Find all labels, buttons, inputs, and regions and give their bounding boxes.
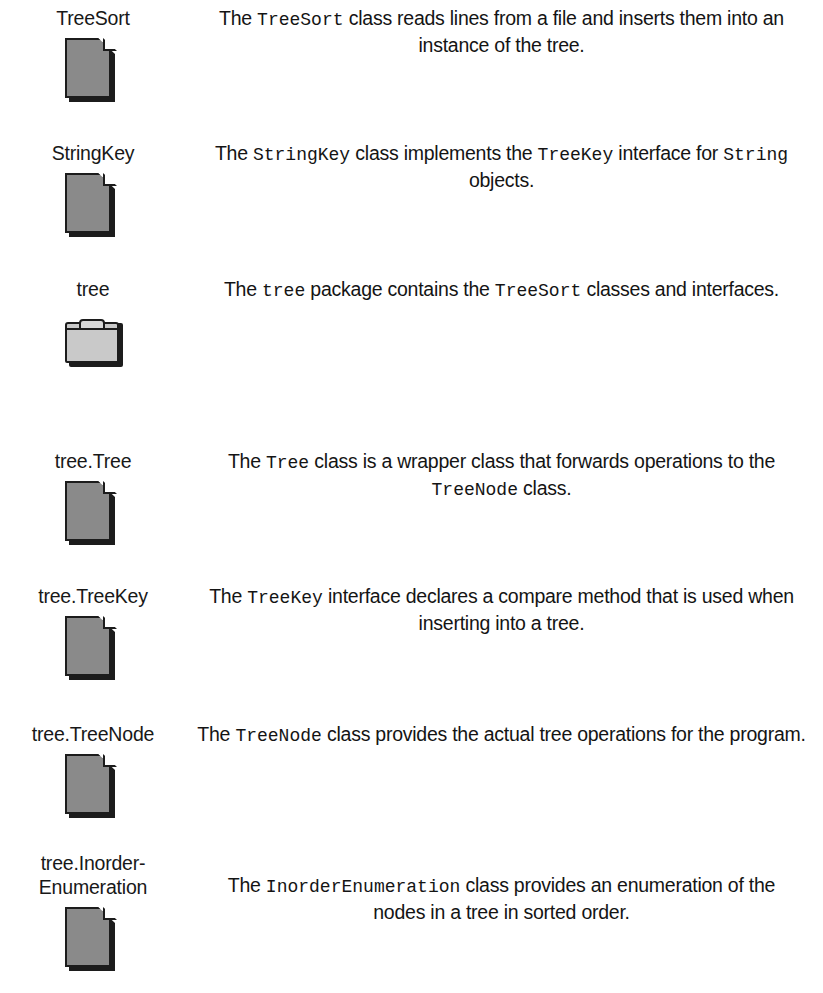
- prose-token: package contains the: [305, 278, 495, 300]
- description-text: The TreeNode class provides the actual t…: [197, 722, 807, 749]
- file-icon: [65, 173, 121, 241]
- prose-token: interface declares a compare method that…: [323, 585, 794, 634]
- table-row: TreeSortThe TreeSort class reads lines f…: [0, 6, 823, 106]
- code-token: StringKey: [253, 145, 350, 165]
- prose-token: class provides the actual tree operation…: [322, 723, 806, 745]
- file-icon: [65, 38, 121, 106]
- file-icon: [65, 907, 121, 975]
- description-cell: The TreeNode class provides the actual t…: [186, 722, 823, 749]
- table-row: tree.Inorder- EnumerationThe InorderEnum…: [0, 851, 823, 975]
- description-text: The TreeSort class reads lines from a fi…: [192, 6, 812, 58]
- item-label: tree: [77, 277, 110, 301]
- description-text: The tree package contains the TreeSort c…: [219, 277, 784, 304]
- prose-token: The: [228, 450, 266, 472]
- item-label: TreeSort: [56, 6, 130, 30]
- table-row: treeThe tree package contains the TreeSo…: [0, 277, 823, 377]
- file-icon: [65, 481, 121, 549]
- item-cell: tree: [0, 277, 186, 377]
- item-label: tree.Inorder- Enumeration: [39, 851, 147, 899]
- description-cell: The StringKey class implements the TreeK…: [186, 141, 823, 193]
- prose-token: class is a wrapper class that forwards o…: [309, 450, 775, 472]
- item-label: tree.Tree: [55, 449, 132, 473]
- prose-token: objects.: [469, 169, 534, 191]
- item-cell: tree.Tree: [0, 449, 186, 549]
- prose-token: class implements the: [350, 142, 537, 164]
- folder-icon: [65, 309, 121, 377]
- description-cell: The InorderEnumeration class provides an…: [186, 851, 823, 925]
- description-text: The Tree class is a wrapper class that f…: [192, 449, 812, 503]
- item-label: StringKey: [52, 141, 135, 165]
- prose-token: The: [197, 723, 235, 745]
- item-cell: StringKey: [0, 141, 186, 241]
- table-row: StringKeyThe StringKey class implements …: [0, 141, 823, 241]
- table-row: tree.TreeKeyThe TreeKey interface declar…: [0, 584, 823, 684]
- item-cell: TreeSort: [0, 6, 186, 106]
- item-cell: tree.TreeKey: [0, 584, 186, 684]
- description-cell: The Tree class is a wrapper class that f…: [186, 449, 823, 503]
- code-token: TreeNode: [235, 726, 321, 746]
- prose-token: class.: [518, 477, 572, 499]
- description-text: The StringKey class implements the TreeK…: [197, 141, 807, 193]
- file-icon: [65, 754, 121, 822]
- code-token: String: [723, 145, 788, 165]
- item-label: tree.TreeKey: [38, 584, 148, 608]
- description-cell: The tree package contains the TreeSort c…: [186, 277, 823, 304]
- prose-token: The: [219, 7, 257, 29]
- code-token: TreeKey: [538, 145, 614, 165]
- prose-token: class reads lines from a file and insert…: [344, 7, 784, 56]
- code-token: tree: [262, 281, 305, 301]
- prose-token: The: [215, 142, 253, 164]
- prose-token: The: [209, 585, 247, 607]
- description-cell: The TreeSort class reads lines from a fi…: [186, 6, 823, 58]
- prose-token: The: [224, 278, 262, 300]
- file-icon: [65, 616, 121, 684]
- prose-token: The: [228, 874, 266, 896]
- table-row: tree.TreeThe Tree class is a wrapper cla…: [0, 449, 823, 549]
- description-text: The TreeKey interface declares a compare…: [202, 584, 802, 636]
- prose-token: classes and interfaces.: [581, 278, 779, 300]
- code-token: TreeSort: [257, 10, 343, 30]
- code-token: TreeSort: [495, 281, 581, 301]
- prose-token: interface for: [613, 142, 723, 164]
- code-token: Tree: [266, 453, 309, 473]
- code-token: TreeNode: [432, 480, 518, 500]
- item-cell: tree.Inorder- Enumeration: [0, 851, 186, 975]
- table-row: tree.TreeNodeThe TreeNode class provides…: [0, 722, 823, 822]
- document-page: TreeSortThe TreeSort class reads lines f…: [0, 0, 823, 993]
- code-token: TreeKey: [247, 588, 323, 608]
- description-cell: The TreeKey interface declares a compare…: [186, 584, 823, 636]
- item-cell: tree.TreeNode: [0, 722, 186, 822]
- description-text: The InorderEnumeration class provides an…: [222, 873, 782, 925]
- item-label: tree.TreeNode: [32, 722, 154, 746]
- code-token: InorderEnumeration: [266, 877, 460, 897]
